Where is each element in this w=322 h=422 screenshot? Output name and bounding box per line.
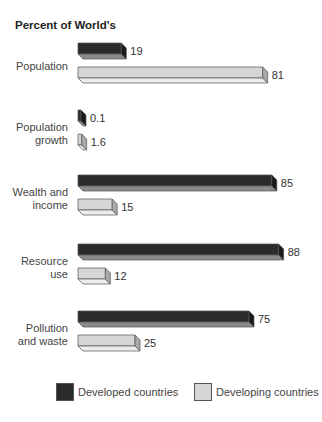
chart: Percent of World's Population1981Populat…: [0, 0, 322, 422]
legend-label-developed: Developed countries: [78, 386, 178, 398]
value-label: 19: [130, 45, 142, 57]
category-label-line: and waste: [18, 335, 68, 348]
bar-developing-bottom: [78, 78, 268, 83]
bar-developing-bottom: [78, 210, 117, 215]
category-label: Resourceuse: [21, 255, 68, 281]
bar-developing-front: [78, 268, 105, 279]
bar-developed-bottom: [78, 322, 254, 327]
category-label-line: Population: [16, 121, 68, 134]
legend-swatch-developed: [56, 383, 74, 401]
bar-developed-bottom: [78, 54, 126, 59]
bar-developing-bottom: [78, 346, 140, 351]
value-label: 75: [258, 313, 270, 325]
bar-developing-front: [78, 199, 112, 210]
category-label: Pollutionand waste: [18, 322, 68, 348]
category-label-line: Pollution: [18, 322, 68, 335]
category-label: Population: [16, 60, 68, 73]
category-label-line: Resource: [21, 255, 68, 268]
legend-label-developing: Developing countries: [216, 386, 319, 398]
bar-developed-front: [78, 244, 279, 255]
category-label: Wealth andincome: [13, 186, 68, 212]
value-label: 88: [288, 246, 300, 258]
category-label-line: Population: [16, 60, 68, 73]
category-label-line: use: [21, 268, 68, 281]
category-label-line: Wealth and: [13, 186, 68, 199]
value-label: 81: [272, 69, 284, 81]
value-label: 85: [281, 177, 293, 189]
bar-developing-front: [78, 335, 135, 346]
category-label-line: income: [13, 199, 68, 212]
bar-developed-front: [78, 43, 121, 54]
category-label: Populationgrowth: [16, 121, 68, 147]
value-label: 0.1: [90, 112, 105, 124]
legend-swatch-developing: [194, 383, 212, 401]
bar-developing-front: [78, 67, 263, 78]
bar-developed-bottom: [78, 186, 277, 191]
value-label: 15: [121, 201, 133, 213]
bar-developed-bottom: [78, 255, 284, 260]
bar-developed-front: [78, 311, 249, 322]
bar-developing-front: [78, 134, 82, 145]
value-label: 25: [144, 337, 156, 349]
value-label: 1.6: [91, 136, 106, 148]
category-label-line: growth: [16, 134, 68, 147]
bar-developed-front: [78, 175, 272, 186]
bar-developing-bottom: [78, 279, 110, 284]
value-label: 12: [114, 270, 126, 282]
bar-developed-front: [78, 110, 81, 121]
legend: Developed countries Developing countries: [0, 383, 322, 405]
